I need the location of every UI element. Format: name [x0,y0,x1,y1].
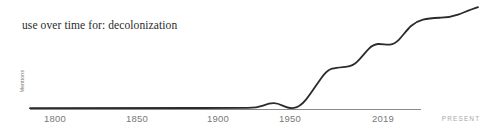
ngram-usage-chart: use over time for: decolonization Mentio… [0,0,500,134]
x-tick-1900: 1900 [207,113,229,124]
plot-area: Mentions 1800 1850 1900 1950 2019 PRESEN… [0,0,500,134]
usage-trend-line [30,7,478,108]
x-tick-2019: 2019 [372,113,394,124]
x-tick-present: PRESENT [442,115,480,122]
x-tick-1950: 1950 [279,113,301,124]
x-tick-1850: 1850 [126,113,148,124]
usage-line-plot [0,0,500,134]
x-tick-1800: 1800 [44,113,66,124]
